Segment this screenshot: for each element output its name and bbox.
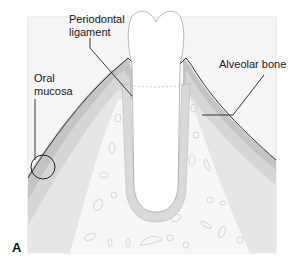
tooth-shape	[128, 11, 184, 212]
periodontal-ligament-label-line2: ligament	[69, 26, 125, 39]
oral-mucosa-label-line2: mucosa	[34, 85, 73, 98]
periodontal-ligament-label: Periodontal ligament	[69, 13, 125, 39]
periodontium-diagram: Periodontal ligament Oral mucosa Alveola…	[0, 0, 308, 269]
periodontal-ligament-label-line1: Periodontal	[69, 13, 125, 26]
oral-mucosa-label: Oral mucosa	[34, 72, 73, 98]
alveolar-bone-label: Alveolar bone	[219, 58, 286, 71]
tooth-cross-section-illustration	[0, 0, 308, 269]
oral-mucosa-label-line1: Oral	[34, 72, 73, 85]
panel-letter: A	[12, 240, 21, 255]
